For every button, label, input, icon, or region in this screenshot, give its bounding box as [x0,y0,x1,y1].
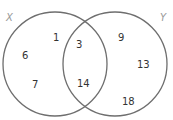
element-y-only: 13 [137,59,150,70]
set-y-circle [63,12,167,116]
element-intersection: 3 [76,39,82,50]
set-x-label: X [5,12,14,23]
element-x-only: 7 [32,79,38,90]
set-x-circle [3,12,107,116]
element-y-only: 9 [118,32,124,43]
element-y-only: 18 [122,96,135,107]
element-x-only: 1 [53,32,59,43]
venn-diagram: X Y 1 6 7 3 14 9 13 18 [0,0,173,120]
element-intersection: 14 [77,78,90,89]
set-y-label: Y [160,12,167,23]
element-x-only: 6 [22,50,28,61]
